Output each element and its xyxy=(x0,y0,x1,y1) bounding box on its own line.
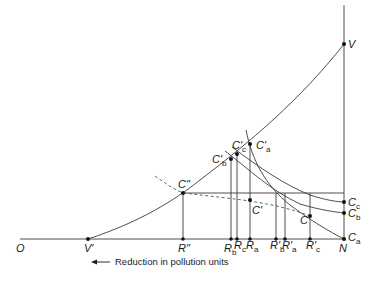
point-C-double xyxy=(181,191,185,195)
cost-curve-VV xyxy=(88,44,344,239)
point-C-prime xyxy=(248,198,252,202)
label-O: O xyxy=(16,242,25,254)
label-C-prime-a: C'a xyxy=(256,139,271,154)
label-V: V xyxy=(348,38,357,50)
tick-Rb xyxy=(229,237,233,241)
label-C-double: C" xyxy=(178,178,191,190)
point-C xyxy=(308,214,312,218)
label-Ca: Ca xyxy=(348,231,361,246)
point-V-prime xyxy=(86,237,90,241)
label-C: C xyxy=(300,214,308,226)
curve-Cc xyxy=(232,147,344,202)
point-C-prime-b xyxy=(229,157,233,161)
caption-reduction-in-pollution-units: Reduction in pollution units xyxy=(115,256,229,267)
label-Ra: Ra xyxy=(246,239,259,254)
label-V-prime: V' xyxy=(84,242,94,254)
point-V xyxy=(342,42,346,46)
label-N: N xyxy=(339,242,347,254)
pollution-reduction-diagram: V C" C'b C'c C'a C' C Cc Cb Ca O V' R" R… xyxy=(0,0,375,284)
label-C-prime-b: C'b xyxy=(212,153,227,168)
label-C-prime: C' xyxy=(252,204,263,216)
point-Cc xyxy=(342,200,346,204)
tick-R-double xyxy=(181,237,185,241)
point-C-prime-a xyxy=(248,142,252,146)
left-arrow-icon xyxy=(91,260,110,265)
point-C-prime-c xyxy=(235,152,239,156)
label-R-double: R" xyxy=(178,242,191,254)
label-R-prime-c: R'c xyxy=(306,239,320,254)
point-Cb xyxy=(342,211,346,215)
point-Ca xyxy=(342,237,346,241)
